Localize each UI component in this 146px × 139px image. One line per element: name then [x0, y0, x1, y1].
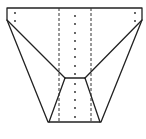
left-diagonal-fold	[7, 20, 65, 78]
center-dot	[74, 23, 76, 25]
center-dot	[74, 116, 76, 118]
center-dot	[74, 56, 76, 58]
outer-outline	[7, 8, 142, 122]
center-dot	[74, 73, 76, 75]
corner-dot	[134, 20, 136, 22]
dot-markers	[14, 12, 136, 118]
right-diagonal-fold	[85, 20, 142, 78]
center-dot	[74, 48, 76, 50]
center-dot	[74, 40, 76, 42]
center-dot	[74, 107, 76, 109]
center-dot	[74, 91, 76, 93]
corner-dot	[14, 20, 16, 22]
corner-dot	[134, 12, 136, 14]
fold-diagram	[0, 0, 146, 139]
center-dot	[74, 83, 76, 85]
center-dot	[74, 65, 76, 67]
center-dot	[74, 15, 76, 17]
center-dot	[74, 32, 76, 34]
inner-right-edge	[85, 78, 100, 122]
inner-left-edge	[49, 78, 65, 122]
center-dot	[74, 99, 76, 101]
corner-dot	[14, 12, 16, 14]
